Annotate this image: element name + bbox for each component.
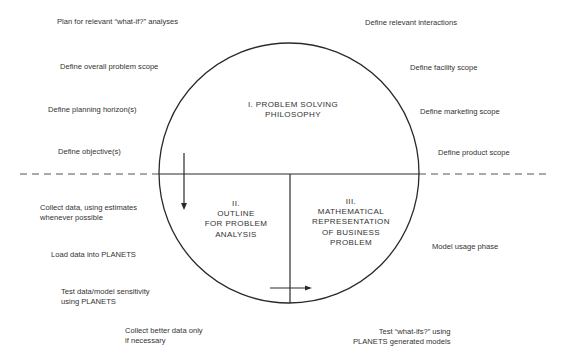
- down-arrow-icon: [181, 153, 187, 210]
- section-mathematical-representation: III. MATHEMATICAL REPRESENTATION OF BUSI…: [296, 197, 406, 248]
- label-model-usage-phase: Model usage phase: [432, 242, 498, 252]
- label-overall-problem-scope: Define overall problem scope: [60, 62, 158, 72]
- label-relevant-interactions: Define relevant interactions: [365, 18, 457, 28]
- label-plan-what-if: Plan for relevant “what-if?” analyses: [57, 17, 178, 27]
- label-test-sensitivity: Test data/model sensitivity using PLANET…: [61, 287, 150, 307]
- section-problem-solving-philosophy: I. PROBLEM SOLVING PHILOSOPHY: [238, 100, 348, 120]
- right-arrow-icon: [270, 286, 312, 291]
- label-load-data: Load data into PLANETS: [51, 250, 136, 260]
- philosophy-circle: [159, 43, 419, 303]
- label-product-scope: Define product scope: [438, 148, 510, 158]
- label-define-objectives: Define objective(s): [58, 147, 121, 157]
- label-collect-data: Collect data, using estimates whenever p…: [40, 203, 137, 223]
- label-collect-better-data: Collect better data only if necessary: [125, 326, 203, 346]
- label-marketing-scope: Define marketing scope: [420, 107, 500, 117]
- label-facility-scope: Define facility scope: [410, 63, 478, 73]
- section-outline-problem-analysis: II. OUTLINE FOR PROBLEM ANALYSIS: [196, 199, 276, 240]
- label-planning-horizon: Define planning horizon(s): [48, 105, 137, 115]
- label-test-what-ifs: Test “what-ifs?” using PLANETS generated…: [353, 327, 451, 347]
